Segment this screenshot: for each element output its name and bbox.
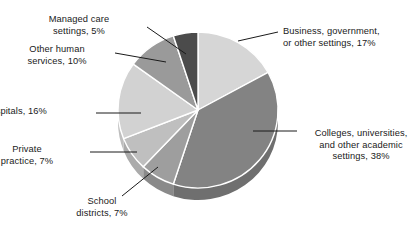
slice-label-school-districts: School districts, 7% (58, 196, 146, 219)
slice-label-other-human-services: Other human services, 10% (0, 44, 122, 67)
slice-label-managed-care: Managed care settings, 5% (9, 14, 149, 37)
slice-label-private-practice: Private practice, 7% (0, 144, 87, 167)
pie-slices (118, 32, 278, 188)
slice-label-colleges: Colleges, universities, and other academ… (302, 128, 417, 163)
slice-label-hospitals: Hospitals, 16% (0, 106, 47, 118)
slice-label-business: Business, government, or other settings,… (283, 26, 415, 49)
